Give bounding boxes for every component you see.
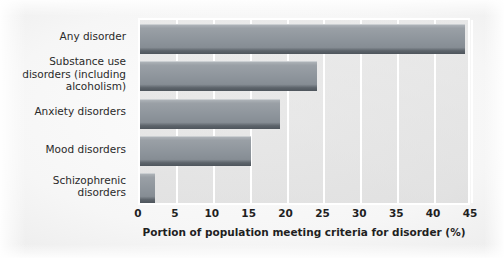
x-tick-label-10: 10 (204, 207, 219, 219)
x-tick-label-40: 40 (426, 207, 441, 219)
y-axis-label: Mood disorders (0, 143, 126, 156)
bar-row (140, 173, 472, 203)
bar (140, 173, 155, 203)
y-axis-label-line: Anxiety disorders (0, 105, 126, 118)
x-tick-label-0: 0 (134, 207, 141, 219)
y-axis-category-labels: Any disorderSubstance usedisorders (incl… (0, 18, 132, 205)
y-axis-label-line: alcoholism) (0, 80, 126, 93)
x-tick-label-30: 30 (352, 207, 367, 219)
bar (140, 136, 251, 166)
bar (140, 24, 465, 54)
x-axis-tick-labels: 051015202530354045 (138, 207, 470, 223)
x-tick-label-35: 35 (389, 207, 404, 219)
y-axis-label: Anxiety disorders (0, 105, 126, 118)
y-axis-label: Schizophrenicdisorders (0, 174, 126, 199)
bar (140, 61, 317, 91)
bar (140, 99, 280, 129)
y-axis-label-line: disorders (0, 186, 126, 199)
bar-row (140, 136, 472, 166)
y-axis-label: Substance usedisorders (includingalcohol… (0, 55, 126, 93)
y-axis-label-line: Mood disorders (0, 143, 126, 156)
x-axis-title: Portion of population meeting criteria f… (138, 226, 470, 238)
bar-chart-figure: Any disorderSubstance usedisorders (incl… (0, 0, 504, 258)
x-tick-label-15: 15 (241, 207, 256, 219)
x-tick-label-20: 20 (278, 207, 293, 219)
x-tick-label-5: 5 (171, 207, 178, 219)
x-tick-label-45: 45 (463, 207, 478, 219)
x-tick-label-25: 25 (315, 207, 330, 219)
y-axis-label-line: disorders (including (0, 68, 126, 81)
y-axis-label-line: Substance use (0, 55, 126, 68)
bar-row (140, 24, 472, 54)
bar-row (140, 61, 472, 91)
y-axis-label-line: Schizophrenic (0, 174, 126, 187)
y-axis-label-line: Any disorder (0, 30, 126, 43)
plot-area (138, 18, 470, 205)
bar-row (140, 99, 472, 129)
y-axis-label: Any disorder (0, 30, 126, 43)
